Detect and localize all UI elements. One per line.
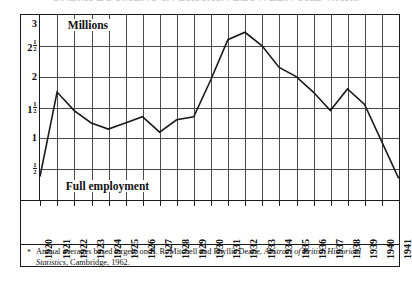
plot-area: Millions Full employment	[40, 15, 399, 200]
y-axis-tick-label: 2	[32, 71, 37, 82]
chart-title-remnant: UNEMPLOYMENT IN BRITAIN BETWEEN THE WARS	[0, 0, 412, 7]
x-axis-tick	[297, 201, 298, 206]
x-axis-tick	[177, 201, 178, 206]
x-axis-tick	[262, 201, 263, 206]
x-axis-tick	[92, 201, 93, 206]
x-axis-tick	[314, 201, 315, 206]
x-axis-tick	[143, 201, 144, 206]
data-series-line	[40, 15, 399, 200]
x-axis-tick	[399, 201, 400, 206]
x-axis-tick	[331, 201, 332, 206]
footnote-line1: Annual averages based largely on B. R. M…	[36, 247, 262, 256]
x-axis-tick	[245, 201, 246, 206]
y-axis-tick-label: 12	[32, 162, 37, 176]
x-axis-tick	[57, 201, 58, 206]
x-axis-tick	[348, 201, 349, 206]
y-axis-tick-label: 3	[32, 19, 37, 30]
footnote-marker: *	[27, 248, 31, 259]
chart-title-text: UNEMPLOYMENT IN BRITAIN BETWEEN THE WARS	[52, 0, 360, 3]
x-axis-tick	[194, 201, 195, 206]
footnote: * Annual averages based largely on B. R.…	[27, 247, 395, 268]
y-axis-tick-label: 1	[32, 133, 37, 144]
x-axis-tick	[211, 201, 212, 206]
y-axis-tick-label: 212	[27, 39, 37, 53]
y-axis-tick-label: 112	[27, 100, 37, 114]
chart-figure: 32122112112 Millions Full employment 192…	[20, 14, 400, 267]
footnote-line2-rest: , Cambridge, 1962.	[66, 258, 130, 267]
footnote-text: Annual averages based largely on B. R. M…	[27, 247, 395, 268]
x-axis-tick	[279, 201, 280, 206]
x-axis-tick	[109, 201, 110, 206]
annotation-millions: Millions	[66, 19, 109, 31]
x-axis-labels: 1920192119221923192419251926192719281929…	[40, 201, 399, 243]
y-axis-labels: 32122112112	[21, 15, 39, 200]
x-axis-tick	[74, 201, 75, 206]
x-axis-tick-label: 1941	[403, 239, 412, 259]
footnote-divider	[21, 244, 399, 245]
x-axis-tick	[365, 201, 366, 206]
x-axis-tick	[126, 201, 127, 206]
x-axis-tick	[40, 201, 41, 206]
x-axis-tick	[228, 201, 229, 206]
annotation-full-employment: Full employment	[64, 180, 150, 192]
x-axis-tick	[160, 201, 161, 206]
x-axis-tick	[382, 201, 383, 206]
